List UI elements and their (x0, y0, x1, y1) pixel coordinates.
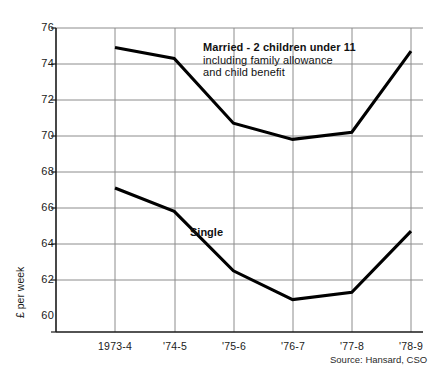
series-annotation-married: Married - 2 children under 11 including … (203, 41, 356, 79)
series-annotation-married-line3: and child benefit (203, 66, 356, 79)
series-annotation-married-line2: including family allowance (203, 54, 356, 67)
series-annotation-married-line1: Married - 2 children under 11 (203, 41, 356, 54)
chart-figure: 76 74 72 70 68 66 64 62 60 £ per week 19… (0, 0, 440, 379)
source-note: Source: Hansard, CSO (330, 354, 427, 365)
series-annotation-single: Single (190, 226, 223, 238)
